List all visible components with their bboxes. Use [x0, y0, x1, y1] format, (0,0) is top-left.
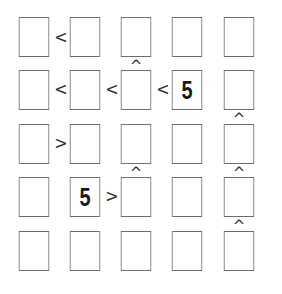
grid-cell-r0-c4[interactable]: [224, 17, 254, 57]
grid-cell-r4-c3[interactable]: [172, 231, 202, 271]
caret-up-icon: ^: [232, 111, 246, 127]
futoshiki-grid: 55<<<<>>^^^^^: [0, 0, 282, 294]
grid-cell-r0-c3[interactable]: [172, 17, 202, 57]
cell-value: 5: [79, 183, 90, 212]
grid-cell-r2-c2[interactable]: [121, 124, 151, 164]
grid-cell-r3-c1[interactable]: 5: [70, 177, 100, 217]
grid-cell-r2-c1[interactable]: [70, 124, 100, 164]
grid-cell-r0-c0[interactable]: [19, 17, 49, 57]
grid-cell-r4-c4[interactable]: [224, 231, 254, 271]
cell-value: 5: [181, 76, 192, 105]
grid-cell-r3-c0[interactable]: [19, 177, 49, 217]
caret-up-icon: ^: [129, 58, 143, 74]
grid-cell-r4-c1[interactable]: [70, 231, 100, 271]
grid-cell-r3-c4[interactable]: [224, 177, 254, 217]
grid-cell-r4-c0[interactable]: [19, 231, 49, 271]
grid-cell-r2-c3[interactable]: [172, 124, 202, 164]
grid-cell-r3-c3[interactable]: [172, 177, 202, 217]
caret-up-icon: ^: [232, 218, 246, 234]
grid-cell-r0-c1[interactable]: [70, 17, 100, 57]
greater-than-icon: >: [54, 135, 68, 153]
greater-than-icon: >: [105, 188, 119, 206]
grid-cell-r2-c4[interactable]: [224, 124, 254, 164]
grid-cell-r3-c2[interactable]: [121, 177, 151, 217]
less-than-icon: <: [156, 81, 170, 99]
grid-cell-r0-c2[interactable]: [121, 17, 151, 57]
less-than-icon: <: [54, 81, 68, 99]
grid-cell-r1-c1[interactable]: [70, 70, 100, 110]
grid-cell-r1-c0[interactable]: [19, 70, 49, 110]
grid-cell-r2-c0[interactable]: [19, 124, 49, 164]
grid-cell-r4-c2[interactable]: [121, 231, 151, 271]
grid-cell-r1-c4[interactable]: [224, 70, 254, 110]
caret-up-icon: ^: [232, 165, 246, 181]
grid-cell-r1-c2[interactable]: [121, 70, 151, 110]
grid-cell-r1-c3[interactable]: 5: [172, 70, 202, 110]
less-than-icon: <: [105, 81, 119, 99]
less-than-icon: <: [54, 28, 68, 46]
caret-up-icon: ^: [129, 165, 143, 181]
